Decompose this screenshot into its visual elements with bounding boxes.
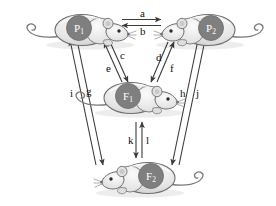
arrow-label-i: i xyxy=(70,88,73,99)
arrow-label-e: e xyxy=(106,63,111,74)
f1-badge-subscript: 1 xyxy=(129,95,133,104)
arrow-label-f: f xyxy=(170,63,174,74)
parent-two-badge-label: P2 xyxy=(199,23,223,34)
arrow-label-b: b xyxy=(140,26,146,37)
arrow-label-h: h xyxy=(180,88,186,99)
parent-two-badge-subscript: 2 xyxy=(212,27,216,36)
arrow-j xyxy=(179,40,205,165)
parent-one-badge-subscript: 1 xyxy=(80,27,84,36)
figure-canvas: P1 P2 F1 F2 a b c e d f i g h j k l xyxy=(0,0,276,206)
arrow-label-g: g xyxy=(86,86,92,97)
f2-badge-label: F2 xyxy=(139,171,163,182)
f2-badge-subscript: 2 xyxy=(152,175,156,184)
arrow-label-k: k xyxy=(128,135,134,146)
arrow-g xyxy=(77,40,103,165)
arrow-label-l: l xyxy=(146,135,149,146)
arrow-label-d: d xyxy=(156,52,162,63)
arrow-label-c: c xyxy=(120,50,125,61)
arrow-label-j: j xyxy=(196,88,199,99)
parent-one-badge-label: P1 xyxy=(67,23,91,34)
arrow-label-a: a xyxy=(140,8,145,19)
diagram-svg xyxy=(0,0,276,206)
f1-badge-label: F1 xyxy=(116,91,140,102)
